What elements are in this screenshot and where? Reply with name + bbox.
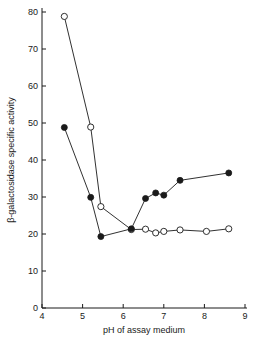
y-tick-label: 50	[28, 118, 38, 128]
data-point-open	[88, 124, 94, 130]
data-point-filled	[226, 170, 232, 176]
series-filled-circles	[61, 124, 231, 239]
chart-figure: 01020304050607080456789pH of assay mediu…	[0, 0, 276, 343]
series-open-circles	[61, 13, 232, 236]
data-point-open	[153, 230, 159, 236]
data-point-filled	[88, 194, 94, 200]
x-tick-label: 9	[242, 311, 247, 321]
y-tick-label: 70	[28, 44, 38, 54]
data-point-open	[161, 228, 167, 234]
x-tick-label: 5	[80, 311, 85, 321]
chart-svg: 01020304050607080456789pH of assay mediu…	[0, 0, 276, 343]
y-tick-label: 20	[28, 229, 38, 239]
x-axis-title: pH of assay medium	[103, 325, 185, 335]
data-point-filled	[61, 124, 67, 130]
x-tick-label: 7	[161, 311, 166, 321]
data-point-open	[226, 226, 232, 232]
x-tick-label: 6	[121, 311, 126, 321]
y-tick-label: 40	[28, 155, 38, 165]
data-point-open	[203, 228, 209, 234]
data-point-filled	[128, 226, 134, 232]
series-line	[64, 127, 228, 236]
y-axis-title: β-galactosidase specific activity	[6, 97, 16, 223]
data-point-open	[142, 226, 148, 232]
y-tick-label: 10	[28, 266, 38, 276]
x-tick-label: 8	[202, 311, 207, 321]
data-point-open	[61, 13, 67, 19]
y-tick-label: 30	[28, 192, 38, 202]
data-point-filled	[161, 192, 167, 198]
data-point-open	[177, 227, 183, 233]
data-point-filled	[98, 234, 104, 240]
y-tick-label: 80	[28, 7, 38, 17]
data-point-filled	[143, 195, 149, 201]
y-tick-label: 0	[33, 303, 38, 313]
data-point-filled	[153, 190, 159, 196]
x-tick-label: 4	[39, 311, 44, 321]
y-tick-label: 60	[28, 81, 38, 91]
data-point-open	[98, 204, 104, 210]
data-point-filled	[177, 177, 183, 183]
